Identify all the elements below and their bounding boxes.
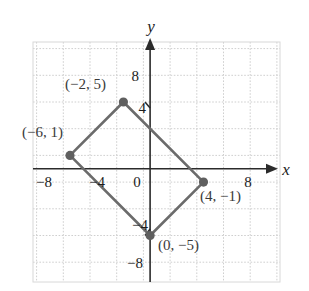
annotation-point-a: (−2, 5): [65, 76, 106, 93]
coordinate-plane-svg: x y −8 −4 0 8 8 4 −4 −8 (−2, 5) (−6, 1) …: [0, 0, 309, 291]
x-axis-label: x: [281, 160, 290, 179]
y-tick-label-8: 8: [132, 68, 140, 84]
y-tick-label-4: 4: [139, 100, 147, 116]
annotation-point-d: (0, −5): [158, 237, 199, 254]
y-axis: [145, 38, 155, 282]
x-tick-label-8: 8: [244, 174, 252, 190]
y-axis-label: y: [145, 17, 155, 36]
annotation-point-b: (−6, 1): [22, 124, 63, 141]
x-axis: [33, 164, 278, 174]
vertex-point-a: [119, 97, 128, 106]
vertex-point-b: [65, 151, 74, 160]
x-tick-label-neg8: −8: [36, 174, 52, 190]
graph-figure: x y −8 −4 0 8 8 4 −4 −8 (−2, 5) (−6, 1) …: [0, 0, 309, 291]
y-tick-label-neg8: −8: [127, 255, 143, 271]
x-tick-label-0: 0: [133, 174, 141, 190]
y-tick-label-neg4: −4: [132, 217, 148, 233]
annotation-point-c: (4, −1): [200, 188, 241, 205]
vertex-point-c: [199, 178, 208, 187]
x-tick-label-neg4: −4: [89, 174, 105, 190]
